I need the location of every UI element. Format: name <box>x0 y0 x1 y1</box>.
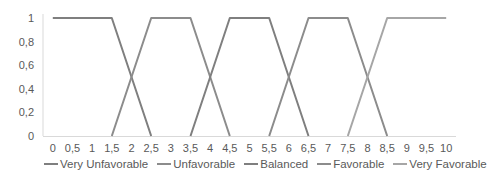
y-tick-label: 0,4 <box>0 83 34 95</box>
series-line-favorable <box>269 18 387 136</box>
series-line-balanced <box>191 18 309 136</box>
y-tick-label: 0,6 <box>0 59 34 71</box>
legend-item-balanced: Balanced <box>244 158 308 170</box>
legend-line-swatch-icon <box>44 163 58 165</box>
legend-item-very-favorable: Very Favorable <box>393 158 486 170</box>
series-lines <box>53 18 446 136</box>
series-line-very-unfavorable <box>53 18 151 136</box>
legend-line-swatch-icon <box>157 163 171 165</box>
y-tick-label: 1 <box>0 12 34 24</box>
legend-label: Favorable <box>333 158 384 170</box>
legend-item-very-unfavorable: Very Unfavorable <box>44 158 148 170</box>
legend-label: Balanced <box>260 158 308 170</box>
chart-legend: Very UnfavorableUnfavorableBalancedFavor… <box>44 157 491 171</box>
series-line-unfavorable <box>112 18 230 136</box>
y-tick-label: 0 <box>0 130 34 142</box>
legend-line-swatch-icon <box>244 163 258 165</box>
y-tick-label: 0,8 <box>0 36 34 48</box>
legend-item-favorable: Favorable <box>317 158 384 170</box>
legend-line-swatch-icon <box>317 163 331 165</box>
legend-item-unfavorable: Unfavorable <box>157 158 235 170</box>
y-tick-label: 0,2 <box>0 106 34 118</box>
series-line-very-favorable <box>348 18 446 136</box>
legend-label: Very Favorable <box>409 158 486 170</box>
legend-label: Unfavorable <box>173 158 235 170</box>
legend-label: Very Unfavorable <box>60 158 148 170</box>
legend-line-swatch-icon <box>393 163 407 165</box>
x-tick-label: 10 <box>434 142 458 154</box>
